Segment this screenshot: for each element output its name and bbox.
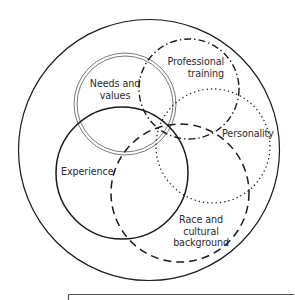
footer-rule [69,295,295,300]
needs-and-values-label-line2: values [100,90,131,101]
personality-circle [156,89,270,203]
needs-and-values-circle [74,53,176,155]
experience-label: Experience [61,166,114,177]
needs-and-values-label-line1: Needs and [90,78,140,89]
race-cultural-background-label-line3: background [173,237,229,248]
professional-training-circle [139,39,239,139]
professional-training-label-line1: Professional [168,56,224,67]
venn-diagram: Needs and values Professional training P… [0,0,294,300]
race-cultural-background-label-line2: cultural [183,226,219,237]
race-cultural-background-label-line1: Race and [179,214,223,225]
personality-label: Personality [222,128,274,139]
professional-training-label-line2: training [188,68,224,79]
